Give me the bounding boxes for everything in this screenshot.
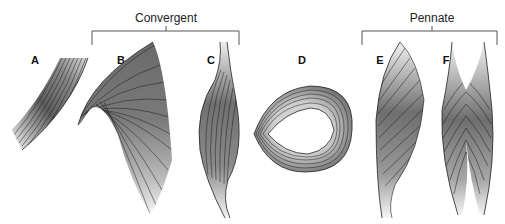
muscle-f-bipennate <box>442 42 493 215</box>
diagram-canvas <box>0 0 505 224</box>
muscle-fiber-diagram: Convergent Pennate A B C D E F <box>0 0 505 224</box>
bracket-pennate <box>362 26 497 45</box>
muscle-a-parallel <box>10 58 88 154</box>
muscle-e-unipennate <box>376 42 424 218</box>
muscle-b-convergent <box>78 42 172 214</box>
bracket-convergent <box>92 26 239 45</box>
muscle-c-fusiform <box>199 42 239 218</box>
muscle-d-circular <box>254 86 352 172</box>
